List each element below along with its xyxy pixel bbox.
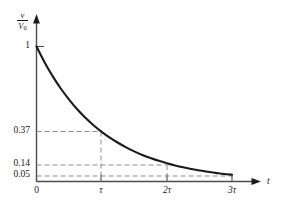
y-tick-label-0-05: 0.05 [6,170,30,180]
y-tick-label-0-37: 0.37 [6,126,30,136]
x-tick-label-3tau: 3τ [221,186,243,196]
x-tick-label-0: 0 [27,186,46,196]
x-axis-arrowhead [252,178,262,185]
y-tick-label-0-14: 0.14 [6,159,30,169]
x-tick-label-2tau: 2τ [156,186,178,196]
plot-area [0,0,284,205]
x-tick-label-tau: τ [91,186,111,196]
x-axis-label: t [267,177,270,187]
y-tick-label-1: 1 [8,41,30,51]
y-axis-label-numerator: v [20,11,26,20]
y-axis-label-denominator: V0 [17,21,27,30]
y-axis-arrowhead [33,14,40,24]
exponential-decay-figure: v V0 1 0.37 0.14 0.05 0 τ 2τ 3τ t [0,0,284,205]
y-axis-label: v V0 [17,11,28,31]
decay-curve [37,47,233,175]
